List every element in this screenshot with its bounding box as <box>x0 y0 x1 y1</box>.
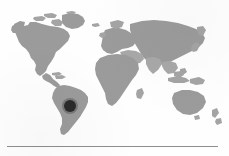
landmass-new-zealand-south <box>215 118 222 125</box>
landmass-north-america <box>14 21 70 76</box>
location-marker-dot[interactable] <box>64 100 76 112</box>
landmass-greenland <box>62 13 85 29</box>
world-map-figure <box>0 0 229 156</box>
landmass-new-zealand <box>212 108 219 118</box>
landmass-baffin-island <box>51 19 63 26</box>
landmass-greenland-fringe <box>66 11 76 14</box>
landmass-australia <box>172 90 206 115</box>
landmass-iceland <box>92 23 100 27</box>
landmass-madagascar <box>136 88 144 99</box>
landmass-india <box>146 57 162 74</box>
landmass-scandinavia <box>110 20 124 29</box>
landmass-new-guinea <box>190 77 205 85</box>
landmass-africa <box>95 54 139 106</box>
landmass-arctic-islands-2 <box>33 16 46 21</box>
caption-divider-rule <box>7 146 218 147</box>
map-canvas <box>0 0 229 140</box>
landmass-tasmania <box>194 115 200 120</box>
landmass-arctic-islands <box>44 13 57 18</box>
world-map-svg <box>0 0 229 140</box>
